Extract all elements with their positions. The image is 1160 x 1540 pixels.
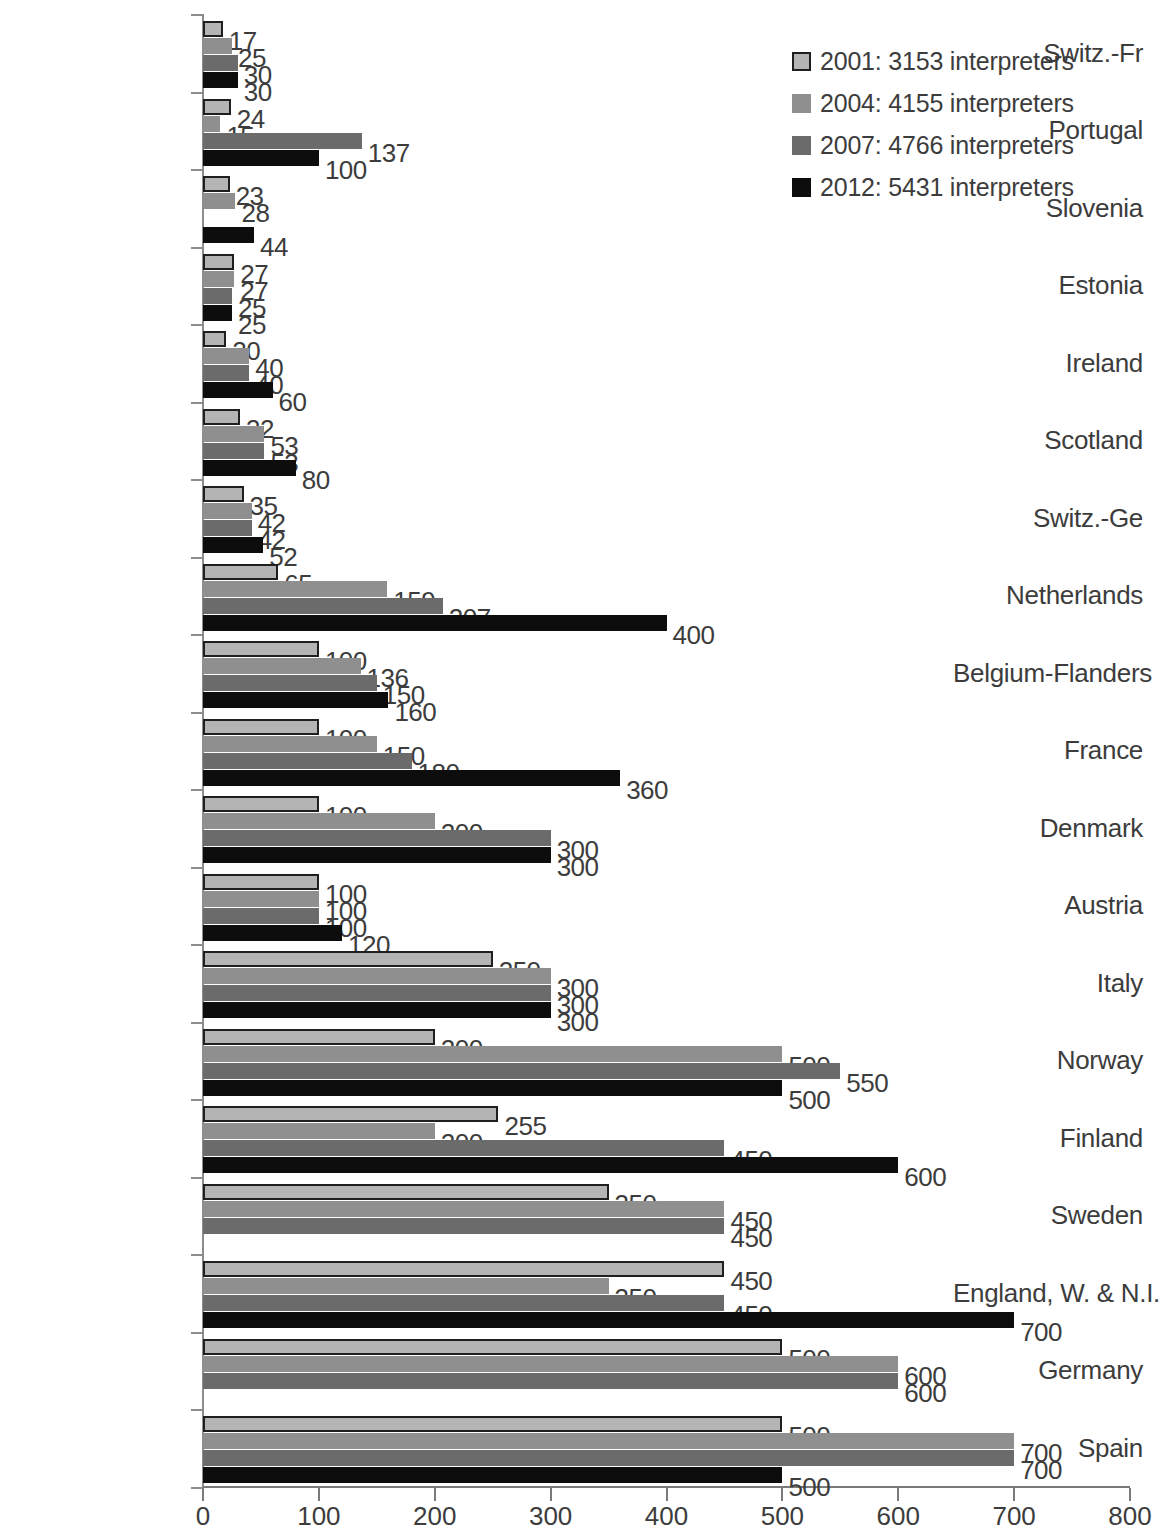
bar [203,305,232,321]
bar [203,21,223,37]
bar [203,641,319,657]
category-tick [191,1177,203,1179]
bar-value-label: 300 [557,1007,599,1038]
x-axis-tick-label: 0 [196,1501,210,1532]
category-label: Portugal [953,115,1143,146]
x-axis-tick-label: 200 [413,1501,456,1532]
bar-value-label: 360 [626,775,668,806]
x-axis-tick [434,1488,436,1501]
bar [203,331,226,347]
category-label: Austria [953,890,1143,921]
bar-value-label: 300 [557,852,599,883]
bar-value-label: 500 [788,1472,830,1503]
bar [203,719,319,735]
bar-value-label: 80 [302,465,330,496]
bar [203,1373,898,1389]
bar [203,770,620,786]
category-tick [191,634,203,636]
bar [203,1312,1014,1328]
bar [203,1295,724,1311]
bar [203,692,388,708]
bar [203,443,264,459]
bar [203,150,319,166]
bar-value-label: 160 [394,697,436,728]
bar-value-label: 28 [241,198,269,229]
bar [203,830,551,846]
bar [203,1218,724,1234]
x-axis-tick-label: 100 [297,1501,340,1532]
category-tick [191,1332,203,1334]
bar [203,1157,898,1173]
x-axis-tick [550,1488,552,1501]
category-tick [191,867,203,869]
x-axis-tick [1129,1488,1131,1501]
x-axis-tick-label: 700 [992,1501,1035,1532]
bar-value-label: 600 [904,1378,946,1409]
bar-value-label: 450 [730,1223,772,1254]
bar-value-label: 700 [1020,1317,1062,1348]
category-tick [191,169,203,171]
x-axis-tick-label: 500 [761,1501,804,1532]
bar [203,1201,724,1217]
bar [203,598,443,614]
bar [203,537,263,553]
category-label: France [953,735,1143,766]
bar [203,1467,782,1483]
bar [203,72,238,88]
category-label: Belgium-Flanders [953,657,1143,688]
bar [203,520,252,536]
bar [203,1029,435,1045]
category-label: Slovenia [953,192,1143,223]
bar [203,133,362,149]
bar-value-label: 550 [846,1068,888,1099]
bar [203,581,387,597]
category-tick [191,944,203,946]
bar [203,736,377,752]
x-axis-tick-label: 300 [529,1501,572,1532]
category-label: Germany [953,1355,1143,1386]
category-label: Estonia [953,270,1143,301]
bar [203,985,551,1001]
bar [203,409,240,425]
category-tick [191,1487,203,1489]
x-axis-tick [318,1488,320,1501]
bar [203,564,278,580]
bar [203,1123,435,1139]
bar [203,38,232,54]
x-axis-tick [666,1488,668,1501]
bar-value-label: 255 [504,1111,546,1142]
bar [203,365,249,381]
bar-value-label: 500 [788,1085,830,1116]
category-tick [191,712,203,714]
category-tick [191,1022,203,1024]
category-label: Scotland [953,425,1143,456]
bar [203,1080,782,1096]
bar-value-label: 137 [368,138,410,169]
category-label: Netherlands [953,580,1143,611]
category-tick [191,14,203,16]
bar [203,1261,724,1277]
bar [203,1184,609,1200]
bar [203,908,319,924]
bar [203,227,254,243]
bar [203,99,231,115]
category-label: Finland [953,1122,1143,1153]
bar [203,1002,551,1018]
bar [203,55,238,71]
bar [203,968,551,984]
category-tick [191,324,203,326]
x-axis-tick [781,1488,783,1501]
category-tick [191,1099,203,1101]
bar-value-label: 700 [1020,1455,1062,1486]
bar [203,116,220,132]
bar [203,615,667,631]
bar [203,382,273,398]
x-axis-tick [202,1488,204,1501]
bar [203,925,342,941]
bar [203,460,296,476]
category-tick [191,789,203,791]
bar [203,1106,498,1122]
bar [203,426,264,442]
